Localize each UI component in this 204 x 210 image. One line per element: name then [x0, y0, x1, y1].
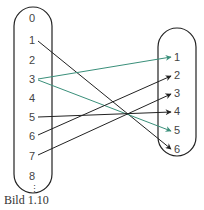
- left-item-2: 2: [29, 54, 35, 66]
- arrow-5-to-4: [38, 112, 171, 117]
- right-item-1: 1: [174, 51, 180, 63]
- arrow-7-to-3: [38, 94, 171, 155]
- left-item-7: 7: [29, 150, 35, 162]
- left-item-1: 1: [29, 34, 35, 46]
- arrow-3-to-1: [38, 57, 171, 79]
- left-item-0: 0: [29, 12, 35, 24]
- right-item-3: 3: [174, 87, 180, 99]
- right-item-4: 4: [174, 105, 180, 117]
- right-item-6: 6: [174, 143, 180, 155]
- arrow-6-to-2: [38, 76, 171, 135]
- right-item-2: 2: [174, 69, 180, 81]
- left-item-8: 8: [29, 170, 35, 182]
- left-item-4: 4: [29, 92, 35, 104]
- arrow-1-to-6: [38, 41, 171, 149]
- left-item-5: 5: [29, 111, 35, 123]
- figure-caption: Bild 1.10: [4, 193, 49, 208]
- mapping-diagram: 0 1 2 3 4 5 6 7 8 ⋮ 1 2 3 4 5 6: [0, 0, 204, 210]
- left-item-3: 3: [29, 73, 35, 85]
- right-item-5: 5: [174, 124, 180, 136]
- left-item-6: 6: [29, 130, 35, 142]
